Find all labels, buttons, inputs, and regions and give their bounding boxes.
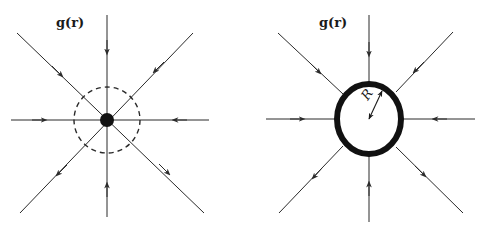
field-line-se	[396, 147, 463, 213]
spherical-shell-diagram	[266, 15, 475, 222]
field-label-right: g(r)	[319, 15, 347, 30]
point-mass-diagram	[11, 15, 209, 217]
point-mass-dot	[100, 113, 114, 127]
gravitational-field-diagrams	[0, 0, 485, 233]
field-line-sw	[279, 146, 343, 213]
field-line-ne	[396, 32, 453, 92]
field-label-left: g(r)	[56, 15, 84, 30]
